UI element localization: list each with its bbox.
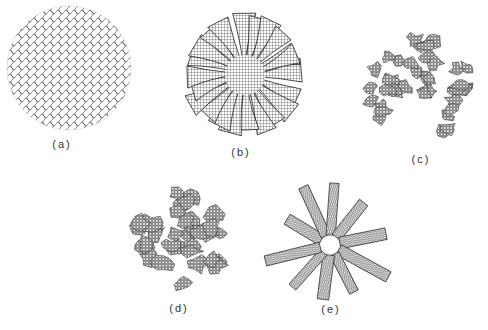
panel-c	[363, 33, 473, 139]
panel-label-d: (d)	[169, 302, 188, 314]
panel-label-e: (e)	[321, 303, 340, 315]
panel-b	[185, 13, 302, 135]
panel-label-b: (b)	[231, 146, 250, 158]
panel-d	[130, 187, 229, 291]
figure-canvas	[0, 0, 488, 330]
panel-label-a: (a)	[52, 138, 71, 150]
panel-a	[7, 6, 131, 130]
panel-e	[264, 183, 391, 300]
panel-label-c: (c)	[412, 153, 431, 165]
